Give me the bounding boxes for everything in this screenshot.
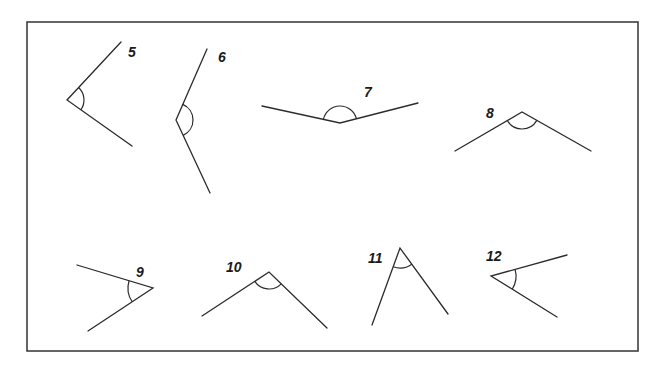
- angle-label: 5: [128, 44, 136, 60]
- angle-9: 9: [77, 264, 153, 331]
- angle-label: 6: [218, 49, 226, 65]
- angle-arc: [323, 106, 356, 119]
- angle-label: 10: [226, 259, 242, 275]
- angle-label: 9: [136, 264, 144, 280]
- angle-label: 12: [486, 248, 502, 264]
- angle-label: 8: [486, 105, 494, 121]
- angle-8: 8: [455, 105, 591, 151]
- angle-label: 11: [368, 250, 383, 266]
- angle-5: 5: [67, 42, 136, 146]
- angle-arc: [79, 88, 84, 110]
- angle-arc: [255, 281, 281, 289]
- angle-12: 12: [486, 248, 567, 317]
- angle-11: 11: [368, 248, 448, 325]
- angle-arc: [183, 104, 193, 135]
- angle-rays: [202, 272, 327, 328]
- angle-arc: [128, 281, 132, 302]
- angle-7: 7: [262, 84, 418, 123]
- angle-label: 7: [364, 84, 373, 100]
- angle-rays: [491, 255, 567, 317]
- angle-rays: [372, 248, 448, 325]
- angle-rays: [455, 112, 591, 151]
- angle-arc: [512, 269, 516, 289]
- angle-10: 10: [202, 259, 327, 328]
- angle-arc: [507, 120, 536, 129]
- frame-border: [27, 22, 638, 351]
- angle-rays: [67, 42, 132, 146]
- angles-diagram: 56789101112: [0, 0, 669, 368]
- angle-6: 6: [176, 49, 226, 193]
- angle-arc: [393, 264, 412, 268]
